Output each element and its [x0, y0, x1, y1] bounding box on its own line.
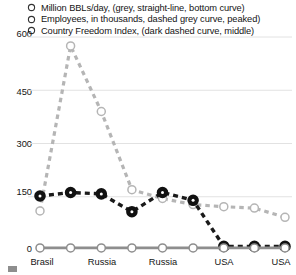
data-point-marker-inner: [69, 191, 72, 194]
x-tick-usa-1: USA: [214, 257, 233, 267]
data-point-marker: [250, 244, 258, 252]
data-point-marker: [220, 244, 228, 252]
data-point-marker: [189, 244, 197, 252]
data-point-marker: [281, 213, 289, 221]
data-point-marker: [159, 244, 167, 252]
data-point-marker: [36, 244, 44, 252]
data-point-marker-inner: [100, 192, 103, 195]
x-tick-russia-2: Russia: [149, 257, 177, 267]
data-point-marker: [97, 108, 105, 116]
data-point-marker: [250, 204, 258, 212]
scroll-caret-icon: [8, 266, 17, 272]
data-point-marker-inner: [39, 195, 42, 198]
data-point-marker: [67, 244, 75, 252]
data-point-marker: [220, 203, 228, 211]
data-point-marker: [67, 42, 75, 50]
data-point-marker-inner: [130, 210, 133, 213]
data-point-marker: [128, 186, 136, 194]
data-point-marker: [97, 244, 105, 252]
data-point-marker: [36, 207, 44, 215]
x-tick-usa-2: USA: [271, 257, 290, 267]
chart-container: Million BBLs/day, (grey, straight-line, …: [0, 0, 296, 275]
data-point-marker: [128, 244, 136, 252]
plot-area: [0, 0, 296, 275]
data-point-marker-inner: [192, 199, 195, 202]
data-point-marker-inner: [161, 191, 164, 194]
data-point-marker: [281, 244, 289, 252]
x-tick-russia-1: Russia: [88, 257, 116, 267]
x-tick-brasil-1: Brasil: [30, 257, 53, 267]
x-axis: Brasil Russia Russia USA USA: [0, 257, 296, 271]
